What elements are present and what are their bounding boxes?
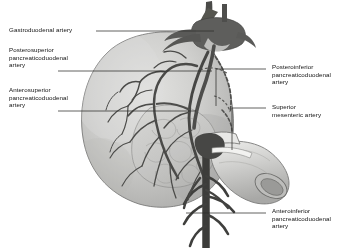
label-anteroinferior-pancreaticoduodenal-artery: Anteroinferior pancreaticoduodenal arter… xyxy=(272,207,331,230)
celiac-hepatic-trunk xyxy=(162,1,256,52)
label-anterosuperior-pancreaticoduodenal-artery: Anterosuperior pancreaticoduodenal arter… xyxy=(9,86,68,109)
label-superior-mesenteric-artery: Superior mesenteric artery xyxy=(272,103,321,118)
label-posterosuperior-pancreaticoduodenal-artery: Posterosuperior pancreaticoduodenal arte… xyxy=(9,46,68,69)
label-posteroinferior-pancreaticoduodenal-artery: Posteroinferior pancreaticoduodenal arte… xyxy=(272,63,331,86)
label-gastroduodenal-artery: Gastroduodenal artery xyxy=(9,26,72,34)
